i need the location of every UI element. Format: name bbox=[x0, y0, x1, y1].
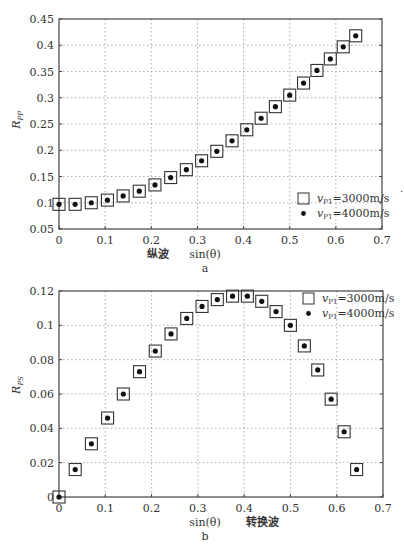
figure-caption: a bbox=[202, 262, 209, 275]
x-axis-label: sin(θ) bbox=[189, 516, 220, 529]
marker-dot bbox=[328, 56, 333, 61]
marker-dot bbox=[89, 441, 94, 446]
y-tick-label: 0.08 bbox=[30, 354, 55, 367]
marker-dot bbox=[353, 33, 358, 38]
marker-dot bbox=[56, 494, 61, 499]
x-tick-label: 0.3 bbox=[189, 234, 207, 247]
marker-dot bbox=[153, 348, 158, 353]
x-tick-label: 0.4 bbox=[235, 234, 253, 247]
y-tick-label: 0.2 bbox=[37, 144, 55, 157]
marker-dot bbox=[230, 294, 235, 299]
x-tick-label: 0.5 bbox=[281, 234, 299, 247]
x-tick-label: 0 bbox=[56, 234, 63, 247]
marker-dot bbox=[105, 415, 110, 420]
marker-dot bbox=[184, 316, 189, 321]
marker-dot bbox=[245, 294, 250, 299]
x-axis-label: sin(θ) bbox=[189, 248, 220, 261]
chart-b-plot: 00.10.20.30.40.50.60.700.020.040.060.080… bbox=[0, 275, 404, 554]
y-tick-label: 0.1 bbox=[37, 197, 55, 210]
legend-entry-label: vP1=3000m/s bbox=[322, 292, 395, 306]
marker-dot bbox=[73, 467, 78, 472]
legend: vP1=3000m/svP1=4000m/s bbox=[298, 192, 390, 221]
x-tick-label: 0.6 bbox=[327, 234, 345, 247]
marker-dot bbox=[288, 323, 293, 328]
y-tick-label: 0.05 bbox=[30, 223, 55, 236]
marker-dot bbox=[301, 80, 306, 85]
x-tick-label: 0.1 bbox=[97, 502, 115, 515]
y-tick-label: 0.25 bbox=[30, 118, 55, 131]
data-points bbox=[53, 30, 362, 211]
figure-caption: b bbox=[201, 530, 208, 543]
marker-dot bbox=[229, 138, 234, 143]
marker-dot bbox=[314, 68, 319, 73]
x-tick-label: 0.7 bbox=[374, 502, 392, 515]
stray-dot-mark: . bbox=[400, 183, 403, 194]
legend-dot-icon bbox=[306, 311, 311, 316]
marker-dot bbox=[329, 397, 334, 402]
y-tick-label: 0.02 bbox=[30, 457, 55, 470]
marker-dot bbox=[137, 369, 142, 374]
legend-entry-label: vP1=4000m/s bbox=[322, 307, 395, 321]
marker-dot bbox=[89, 200, 94, 205]
wave-type-label: 纵波 bbox=[147, 247, 170, 261]
marker-dot bbox=[302, 343, 307, 348]
marker-dot bbox=[341, 44, 346, 49]
x-tick-label: 0.4 bbox=[235, 502, 253, 515]
x-tick-label: 0.1 bbox=[96, 234, 114, 247]
y-tick-label: 0.3 bbox=[37, 92, 55, 105]
data-points bbox=[53, 290, 363, 503]
x-tick-label: 0.5 bbox=[282, 502, 300, 515]
x-tick-label: 0 bbox=[56, 502, 63, 515]
marker-dot bbox=[259, 299, 264, 304]
marker-dot bbox=[273, 104, 278, 109]
marker-dot bbox=[354, 467, 359, 472]
marker-dot bbox=[121, 391, 126, 396]
legend-square-icon bbox=[303, 293, 314, 304]
chart-b-rps: 00.10.20.30.40.50.60.700.020.040.060.080… bbox=[0, 275, 404, 554]
marker-dot bbox=[56, 202, 61, 207]
y-axis-label: RPP bbox=[10, 111, 25, 130]
marker-dot bbox=[168, 175, 173, 180]
marker-dot bbox=[121, 193, 126, 198]
marker-dot bbox=[105, 198, 110, 203]
y-tick-label: 0.45 bbox=[30, 13, 55, 26]
y-axis-label: RPS bbox=[10, 376, 25, 395]
wave-type-label: 转换波 bbox=[246, 515, 280, 529]
legend-dot-icon bbox=[301, 211, 306, 216]
y-tick-label: 0.1 bbox=[37, 319, 55, 332]
marker-dot bbox=[215, 297, 220, 302]
x-tick-label: 0.7 bbox=[373, 234, 391, 247]
marker-dot bbox=[168, 331, 173, 336]
marker-dot bbox=[214, 149, 219, 154]
x-tick-label: 0.6 bbox=[328, 502, 346, 515]
chart-a-rpp: 00.10.20.30.40.50.60.70.050.10.150.20.25… bbox=[0, 0, 404, 275]
marker-dot bbox=[315, 367, 320, 372]
x-tick-label: 0.2 bbox=[143, 502, 161, 515]
y-tick-label: 0.04 bbox=[30, 422, 55, 435]
legend-entry-label: vP1=3000m/s bbox=[317, 192, 390, 206]
y-tick-label: 0.35 bbox=[30, 66, 55, 79]
marker-dot bbox=[287, 93, 292, 98]
marker-dot bbox=[73, 202, 78, 207]
marker-dot bbox=[259, 116, 264, 121]
x-tick-label: 0.3 bbox=[189, 502, 207, 515]
marker-dot bbox=[184, 167, 189, 172]
marker-dot bbox=[244, 127, 249, 132]
y-tick-label: 0.12 bbox=[30, 285, 55, 298]
x-tick-label: 0.2 bbox=[143, 234, 161, 247]
y-tick-label: 0.4 bbox=[37, 39, 55, 52]
marker-dot bbox=[199, 304, 204, 309]
y-tick-label: 0.06 bbox=[30, 388, 55, 401]
chart-a-plot: 00.10.20.30.40.50.60.70.050.10.150.20.25… bbox=[0, 0, 404, 275]
marker-dot bbox=[273, 309, 278, 314]
marker-dot bbox=[342, 429, 347, 434]
marker-dot bbox=[137, 189, 142, 194]
marker-dot bbox=[199, 158, 204, 163]
legend: vP1=3000m/svP1=4000m/s bbox=[303, 292, 395, 321]
marker-dot bbox=[152, 182, 157, 187]
y-tick-label: 0.15 bbox=[30, 171, 55, 184]
legend-entry-label: vP1=4000m/s bbox=[317, 207, 390, 221]
